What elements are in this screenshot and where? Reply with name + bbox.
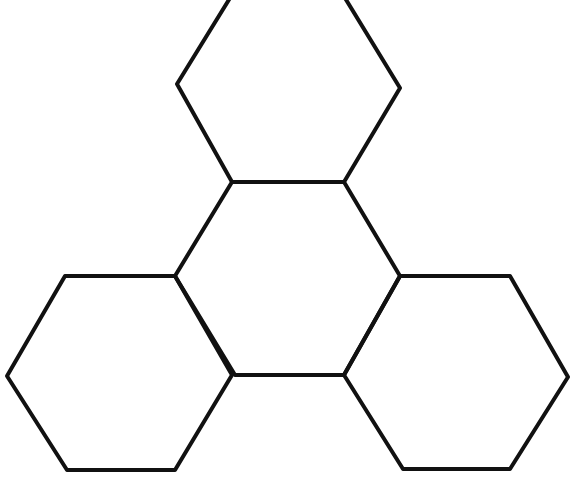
hexagon-left	[7, 276, 232, 470]
hexagon-diagram	[0, 0, 580, 487]
hexagon-center	[175, 182, 400, 375]
hexagon-right	[344, 276, 568, 469]
hexagon-top	[177, 0, 400, 182]
